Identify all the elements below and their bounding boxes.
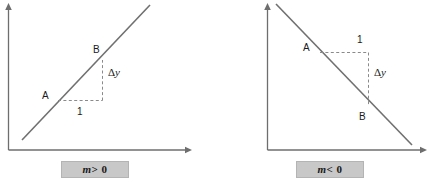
graph-line-negative xyxy=(276,4,412,145)
caption-relation: < 0 xyxy=(327,163,343,175)
delta-variable: y xyxy=(114,66,120,78)
point-b-label: B xyxy=(93,44,100,55)
caption-positive-slope: m> 0 xyxy=(61,161,129,178)
y-axis-arrowhead xyxy=(5,3,12,10)
delta-symbol: Δ xyxy=(374,66,381,78)
slope-figure: A B 1 Δy m> 0 A B 1 Δy xyxy=(0,0,433,183)
point-a-label: A xyxy=(303,42,310,53)
caption-relation: > 0 xyxy=(92,163,108,175)
y-axis-arrowhead xyxy=(264,3,271,10)
caption-symbol-m: m xyxy=(317,163,326,175)
negative-slope-diagram: A B 1 Δy xyxy=(216,0,433,160)
point-a-label: A xyxy=(42,90,49,101)
caption-symbol-m: m xyxy=(82,163,91,175)
run-label: 1 xyxy=(77,106,83,117)
graph-line-positive xyxy=(22,5,150,140)
run-label: 1 xyxy=(357,34,363,45)
rise-label: Δy xyxy=(108,66,120,78)
x-axis-arrowhead xyxy=(185,147,192,154)
point-b-label: B xyxy=(359,111,366,122)
caption-negative-slope: m< 0 xyxy=(296,161,364,178)
rise-label: Δy xyxy=(374,66,386,78)
delta-variable: y xyxy=(380,66,386,78)
delta-symbol: Δ xyxy=(108,66,115,78)
positive-slope-diagram: A B 1 Δy xyxy=(0,0,216,160)
panel-positive-slope: A B 1 Δy m> 0 xyxy=(0,0,216,183)
panel-negative-slope: A B 1 Δy m< 0 xyxy=(216,0,433,183)
x-axis-arrowhead xyxy=(420,147,427,154)
